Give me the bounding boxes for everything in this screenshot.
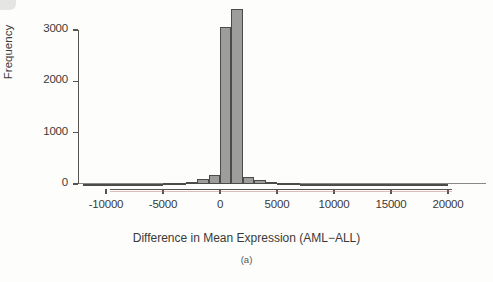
- y-axis-tick-label: 1000: [0, 125, 68, 137]
- x-axis-tick-label: 15000: [376, 198, 407, 210]
- x-axis-tick-label: 20000: [433, 198, 464, 210]
- x-axis-tick-label: -5000: [149, 198, 177, 210]
- x-axis-tick-label: -10000: [89, 198, 124, 210]
- x-axis-title: Difference in Mean Expression (AML−ALL): [0, 231, 493, 245]
- y-axis-title: Frequency: [2, 0, 14, 107]
- panel-caption: (a): [0, 254, 493, 265]
- x-axis-tick-label: 0: [217, 198, 223, 210]
- y-axis-line: [78, 30, 79, 184]
- x-axis-tick-label: 10000: [319, 198, 350, 210]
- y-axis-tick-label: 0: [0, 176, 68, 188]
- y-axis-tick: [73, 29, 78, 30]
- plot-area: [78, 6, 486, 184]
- x-axis-tick-label: 5000: [265, 198, 290, 210]
- y-axis-tick: [73, 81, 78, 82]
- figure-panel: 0100020003000 Frequency -10000-500005000…: [0, 0, 493, 282]
- histogram-baseline: [78, 183, 486, 184]
- scan-tint-line: [110, 191, 452, 192]
- x-axis-tick: [105, 189, 106, 194]
- y-axis-tick: [73, 183, 78, 184]
- y-axis-tick: [73, 132, 78, 133]
